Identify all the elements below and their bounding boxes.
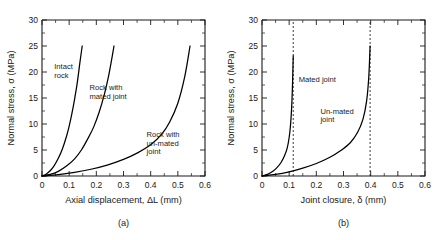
panel-b-curves [262, 46, 370, 176]
panel-a: 00.10.20.30.40.50.6051015202530 Intactro… [0, 0, 222, 240]
y-tick-label: 0 [33, 171, 38, 181]
panel-b-yaxis-title: Normal stress, σ (MPa) [226, 50, 236, 145]
x-tick-label: 0.6 [199, 180, 211, 190]
curve-annotation: Rock withmated joint [90, 83, 128, 101]
curve-annotation: Mated joint [299, 75, 337, 84]
panel-b: 00.10.20.30.40.50.6051015202530 Mated jo… [222, 0, 444, 240]
x-tick-label: 0 [40, 180, 45, 190]
panel-b-xaxis-title: Joint closure, δ (mm) [301, 195, 387, 205]
curve-annotation: Intactrock [54, 62, 73, 80]
x-tick-label: 0.5 [172, 180, 184, 190]
y-tick-label: 30 [29, 15, 39, 25]
panel-a-yaxis-title: Normal stress, σ (MPa) [6, 50, 16, 145]
data-curve [42, 46, 114, 176]
data-curve [262, 46, 370, 176]
x-tick-label: 0.5 [392, 180, 404, 190]
x-tick-label: 0.4 [145, 180, 157, 190]
x-tick-label: 0.1 [63, 180, 75, 190]
y-tick-label: 5 [253, 145, 258, 155]
y-tick-label: 20 [249, 67, 259, 77]
x-tick-label: 0 [260, 180, 265, 190]
panel-a-plot: 00.10.20.30.40.50.6051015202530 Intactro… [0, 0, 222, 240]
y-tick-label: 10 [249, 119, 259, 129]
curve-annotation: Rock withun-matedjoint [146, 130, 180, 156]
x-tick-label: 0.1 [283, 180, 295, 190]
x-tick-label: 0.2 [90, 180, 102, 190]
panel-b-plot: 00.10.20.30.40.50.6051015202530 Mated jo… [222, 0, 444, 240]
panel-b-tick-labels: 00.10.20.30.40.50.6051015202530 [249, 15, 432, 190]
y-tick-label: 15 [29, 93, 39, 103]
y-tick-label: 25 [29, 41, 39, 51]
panel-a-xaxis-title: Axial displacement, ΔL (mm) [65, 195, 182, 205]
y-tick-label: 30 [249, 15, 259, 25]
y-tick-label: 5 [33, 145, 38, 155]
y-tick-label: 20 [29, 67, 39, 77]
figure-container: 00.10.20.30.40.50.6051015202530 Intactro… [0, 0, 444, 240]
curve-annotation: Un-matedjoint [319, 107, 353, 125]
data-curve [262, 56, 293, 176]
x-tick-label: 0.3 [118, 180, 130, 190]
x-tick-label: 0.6 [419, 180, 431, 190]
y-tick-label: 10 [29, 119, 39, 129]
y-tick-label: 25 [249, 41, 259, 51]
x-tick-label: 0.3 [338, 180, 350, 190]
y-tick-label: 15 [249, 93, 259, 103]
panel-b-annotations: Mated jointUn-matedjoint [299, 75, 354, 124]
x-tick-label: 0.4 [365, 180, 377, 190]
panel-b-label: (b) [338, 218, 349, 228]
x-tick-label: 0.2 [310, 180, 322, 190]
panel-b-asymptotes [293, 20, 370, 176]
y-tick-label: 0 [253, 171, 258, 181]
panel-a-label: (a) [118, 218, 129, 228]
